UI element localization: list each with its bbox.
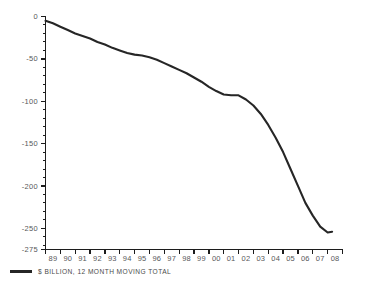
x-axis-tick-label: 89 xyxy=(49,254,58,263)
y-axis-tick-labels: 0-50-100-150-200-250-275 xyxy=(22,12,38,254)
x-axis-tick-label: 96 xyxy=(153,254,162,263)
legend-label: $ BILLION, 12 MONTH MOVING TOTAL xyxy=(38,268,171,275)
legend-swatch-icon xyxy=(10,270,32,273)
x-axis-tick-label: 04 xyxy=(271,254,280,263)
x-axis-tick-label: 01 xyxy=(227,254,236,263)
x-axis-tick-labels: 8990919293949596979899000102030405060708 xyxy=(49,254,340,263)
x-axis-tick-label: 03 xyxy=(256,254,265,263)
y-axis-tick-label: 0 xyxy=(34,12,38,21)
y-axis-major-ticks xyxy=(41,17,46,250)
line-chart-plot: 0-50-100-150-200-250-275 899091929394959… xyxy=(0,0,375,291)
chart-legend: $ BILLION, 12 MONTH MOVING TOTAL xyxy=(10,268,171,275)
x-axis-tick-label: 90 xyxy=(63,254,72,263)
x-axis-tick-label: 05 xyxy=(286,254,295,263)
x-axis-tick-label: 95 xyxy=(138,254,147,263)
x-axis-tick-label: 93 xyxy=(108,254,117,263)
y-axis-tick-label: -150 xyxy=(22,139,38,148)
y-axis-tick-label: -200 xyxy=(22,182,38,191)
data-series-line xyxy=(46,21,333,233)
x-axis-tick-label: 08 xyxy=(331,254,340,263)
x-axis-tick-label: 98 xyxy=(182,254,191,263)
y-axis-tick-label: -275 xyxy=(22,245,38,254)
x-axis-tick-label: 02 xyxy=(242,254,251,263)
x-axis-tick-label: 91 xyxy=(78,254,87,263)
x-axis-tick-label: 92 xyxy=(93,254,102,263)
y-axis-tick-label: -250 xyxy=(22,224,38,233)
x-axis-tick-label: 99 xyxy=(197,254,206,263)
x-axis-tick-label: 00 xyxy=(212,254,221,263)
x-axis-tick-label: 94 xyxy=(123,254,132,263)
x-axis-tick-label: 06 xyxy=(301,254,310,263)
x-axis-tick-label: 07 xyxy=(316,254,325,263)
x-axis-tick-label: 97 xyxy=(167,254,176,263)
y-axis-tick-label: -50 xyxy=(26,54,38,63)
y-axis-tick-label: -100 xyxy=(22,97,38,106)
chart-container: 0-50-100-150-200-250-275 899091929394959… xyxy=(0,0,375,291)
